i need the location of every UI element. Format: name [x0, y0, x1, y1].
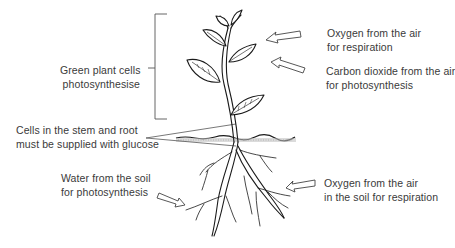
arrow-oxygen-soil [286, 180, 315, 192]
plant-stem [220, 15, 241, 142]
bracket-green-parts [148, 14, 167, 119]
plant-leaves [187, 10, 264, 115]
arrow-carbon-dioxide [271, 57, 305, 73]
label-green-plant-cells: Green plant cells photosynthesise [60, 64, 140, 91]
pointer-stem-root [146, 124, 236, 146]
label-oxygen-air-line1: Oxygen from the air [327, 27, 421, 41]
label-stem-root-line1: Cells in the stem and root [16, 124, 159, 138]
label-stem-root-cells: Cells in the stem and root must be suppl… [16, 124, 159, 151]
label-green-line2: photosynthesise [60, 78, 140, 92]
label-oxygen-air-line2: for respiration [327, 41, 421, 55]
label-water-line2: for photosynthesis [61, 186, 151, 200]
label-oxygen-soil-line2: in the soil for respiration [324, 191, 438, 205]
plant-roots [186, 142, 290, 236]
arrow-water-soil [157, 193, 185, 207]
label-oxygen-air: Oxygen from the air for respiration [327, 27, 421, 54]
label-co2-line1: Carbon dioxide from the air [326, 65, 455, 79]
label-stem-root-line2: must be supplied with glucose [16, 138, 159, 152]
arrow-oxygen-air [266, 31, 301, 43]
label-oxygen-soil-line1: Oxygen from the air [324, 177, 438, 191]
label-oxygen-soil: Oxygen from the air in the soil for resp… [324, 177, 438, 204]
soil-surface [176, 135, 296, 142]
label-green-line1: Green plant cells [60, 64, 140, 78]
label-water-line1: Water from the soil [61, 172, 151, 186]
label-carbon-dioxide: Carbon dioxide from the air for photosyn… [326, 65, 455, 92]
label-water-soil: Water from the soil for photosynthesis [61, 172, 151, 199]
label-co2-line2: for photosynthesis [326, 79, 455, 93]
